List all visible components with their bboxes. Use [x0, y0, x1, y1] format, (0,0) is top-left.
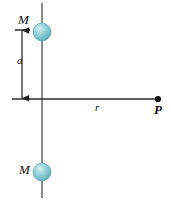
separation-label: a [17, 55, 23, 66]
mass-label-top: M [18, 13, 29, 26]
mass-label-bottom: M [19, 163, 30, 176]
mass-sphere-top [33, 23, 51, 41]
physics-diagram-figure: M a r P M [0, 0, 171, 204]
distance-label: r [95, 102, 99, 113]
mass-sphere-bottom [33, 163, 51, 181]
point-label-p: P [154, 103, 162, 116]
